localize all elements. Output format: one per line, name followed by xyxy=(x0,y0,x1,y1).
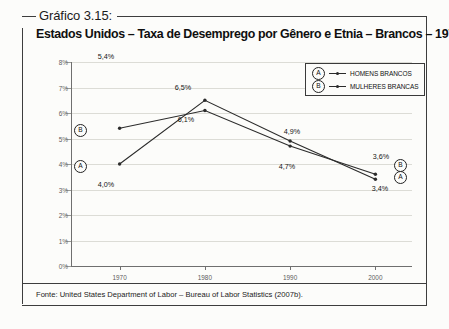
chart-title: Estados Unidos – Taxa de Desemprego por … xyxy=(36,27,428,41)
value-label-a-1990: 4,9% xyxy=(284,127,300,136)
value-label-b-2000: 3,6% xyxy=(373,152,389,161)
series-badge-a-start: A xyxy=(74,160,87,173)
value-label-b-1990: 4,7% xyxy=(279,162,295,171)
value-label-b-1970: 5,4% xyxy=(98,52,114,61)
legend-badge-b: B xyxy=(312,80,325,93)
source-rule xyxy=(22,283,426,284)
data-point xyxy=(288,139,291,142)
x-tick-label: 1980 xyxy=(198,274,212,281)
legend-line-marker-a xyxy=(329,70,346,77)
series-badge-a-end: A xyxy=(394,171,407,184)
value-label-a-2000: 3,4% xyxy=(372,184,388,193)
data-point xyxy=(203,99,206,102)
data-point xyxy=(374,178,377,181)
data-point xyxy=(288,144,291,147)
x-axis-line xyxy=(71,266,412,267)
x-tick-mark xyxy=(375,266,376,270)
data-point xyxy=(374,173,377,176)
caption-rule-left xyxy=(22,16,34,17)
data-point xyxy=(118,127,121,130)
x-tick-mark xyxy=(120,266,121,270)
chart-legend: A HOMENS BRANCOS B MULHERES BRANCAS xyxy=(305,63,425,96)
figure-caption-label: Gráfico 3.15: xyxy=(36,8,117,23)
x-tick-label: 1970 xyxy=(113,274,127,281)
x-tick-label: 1990 xyxy=(283,274,297,281)
y-tick-label: 0% xyxy=(44,266,68,273)
data-point xyxy=(203,109,206,112)
source-note: Fonte: United States Department of Labor… xyxy=(36,290,303,299)
value-label-a-1970: 4,0% xyxy=(98,180,114,189)
series-line-homens-brancos xyxy=(120,100,376,179)
legend-item-mulheres-brancas: B MULHERES BRANCAS xyxy=(312,81,419,92)
x-tick-label: 2000 xyxy=(368,274,382,281)
data-point xyxy=(118,162,121,165)
x-tick-mark xyxy=(205,266,206,270)
legend-line-marker-b xyxy=(329,83,346,90)
value-label-b-1980: 6,1% xyxy=(178,115,194,124)
figure-frame-left-edge xyxy=(22,28,23,304)
series-badge-b-start: B xyxy=(74,124,87,137)
value-label-a-1980: 6,5% xyxy=(175,83,191,92)
figure-container: Gráfico 3.15: Estados Unidos – Taxa de D… xyxy=(0,0,449,329)
legend-item-homens-brancos: A HOMENS BRANCOS xyxy=(312,68,412,79)
legend-badge-a: A xyxy=(312,67,325,80)
legend-label-mulheres-brancas: MULHERES BRANCAS xyxy=(350,83,419,90)
series-markers xyxy=(118,99,377,181)
legend-label-homens-brancos: HOMENS BRANCOS xyxy=(350,70,412,77)
x-tick-mark xyxy=(290,266,291,270)
